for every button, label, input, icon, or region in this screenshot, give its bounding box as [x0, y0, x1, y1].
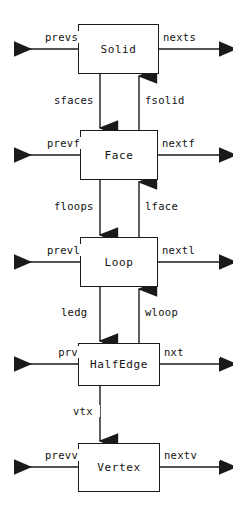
- label-floops: floops: [53, 200, 99, 212]
- node-face[interactable]: Face: [80, 130, 158, 180]
- label-prevs: prevs: [31, 31, 79, 43]
- node-solid[interactable]: Solid: [78, 24, 159, 74]
- label-nextf: nextf: [161, 137, 218, 149]
- label-wloop: wloop: [144, 306, 196, 318]
- label-nxt: nxt: [163, 346, 220, 358]
- label-nexts: nexts: [162, 31, 219, 43]
- label-lface: lface: [144, 200, 196, 212]
- label-vtx: vtx: [72, 405, 100, 417]
- node-vertex[interactable]: Vertex: [78, 443, 160, 492]
- label-prevl: prevl: [33, 244, 81, 256]
- label-nextl: nextl: [161, 244, 218, 256]
- node-vertex-label: Vertex: [97, 461, 140, 474]
- node-loop-label: Loop: [105, 256, 134, 269]
- label-prevv: prevv: [31, 449, 79, 461]
- label-prv: prv: [31, 346, 79, 358]
- node-loop[interactable]: Loop: [80, 237, 158, 287]
- label-prevf: prevf: [33, 137, 81, 149]
- node-halfedge-label: HalfEdge: [90, 358, 148, 371]
- label-nextv: nextv: [163, 449, 220, 461]
- node-face-label: Face: [105, 149, 134, 162]
- node-halfedge[interactable]: HalfEdge: [78, 343, 160, 386]
- label-ledg: ledg: [60, 306, 99, 318]
- label-sfaces: sfaces: [53, 94, 99, 106]
- node-solid-label: Solid: [100, 43, 136, 56]
- label-fsolid: fsolid: [144, 94, 196, 106]
